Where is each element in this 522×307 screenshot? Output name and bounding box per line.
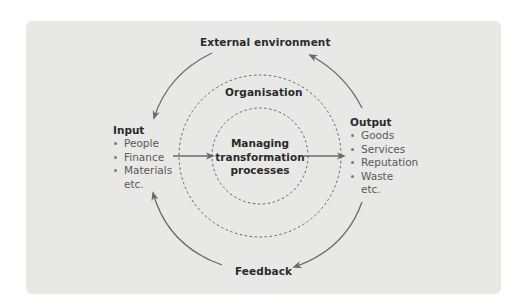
- bullet-icon: [351, 175, 354, 178]
- input-etc: etc.: [113, 178, 172, 191]
- input-item: Materials: [113, 164, 172, 177]
- input-list: Input People Finance Materials etc.: [113, 124, 172, 191]
- output-item: Goods: [350, 129, 418, 142]
- bullet-icon: [351, 161, 354, 164]
- feedback-label: Feedback: [235, 265, 292, 277]
- bullet-icon: [351, 134, 354, 137]
- arrow-environment-to-input: [154, 53, 212, 118]
- center-line: processes: [210, 164, 310, 178]
- input-item: People: [113, 137, 172, 150]
- center-line: Managing: [210, 137, 310, 151]
- bullet-icon: [114, 142, 117, 145]
- output-title: Output: [350, 116, 418, 129]
- bullet-icon: [351, 148, 354, 151]
- organisation-label: Organisation: [225, 86, 303, 98]
- arrow-output-to-feedback: [294, 202, 362, 267]
- bullet-icon: [114, 169, 117, 172]
- output-item: Services: [350, 143, 418, 156]
- bullet-icon: [114, 156, 117, 159]
- output-list: Output Goods Services Reputation Waste e…: [350, 116, 418, 196]
- arrow-feedback-to-input: [153, 193, 222, 265]
- transformation-process-label: Managing transformation processes: [210, 137, 310, 178]
- output-etc: etc.: [350, 183, 418, 196]
- external-environment-label: External environment: [200, 36, 331, 48]
- output-item: Reputation: [350, 156, 418, 169]
- input-item: Finance: [113, 151, 172, 164]
- center-line: transformation: [210, 151, 310, 165]
- input-title: Input: [113, 124, 172, 137]
- arrow-output-to-environment: [310, 55, 362, 108]
- output-item: Waste: [350, 170, 418, 183]
